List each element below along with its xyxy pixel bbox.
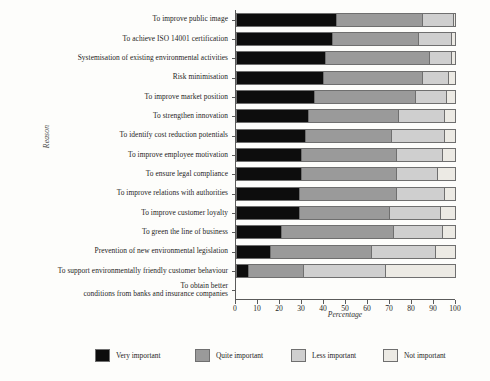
bar-segment [236, 245, 271, 259]
bar-segment [236, 51, 326, 65]
bar-segment [300, 206, 390, 220]
bar-segment [315, 90, 416, 104]
legend-item: Quite important [195, 347, 263, 363]
bar-segment [436, 245, 456, 259]
bar-segment [452, 32, 456, 46]
bar-segment [249, 264, 304, 278]
legend-swatch [95, 349, 110, 362]
plot-area [235, 10, 455, 300]
bar-segment [236, 71, 324, 85]
y-axis-tick [232, 136, 236, 137]
legend-item: Very important [95, 347, 161, 363]
y-axis-tick [232, 39, 236, 40]
bar-segment [326, 51, 429, 65]
bar-segment [337, 13, 423, 27]
bar-segment [452, 51, 456, 65]
bar-segment [302, 167, 397, 181]
bar-segment [397, 148, 443, 162]
legend-swatch [195, 349, 210, 362]
bar-segment [236, 187, 300, 201]
x-axis-tick-label: 100 [440, 304, 470, 313]
stacked-bar-chart: Reason To improve public imageTo achieve… [0, 0, 490, 381]
bar-segment [438, 167, 456, 181]
category-label-list: To improve public imageTo achieve ISO 14… [34, 10, 228, 300]
bar-segment [397, 167, 439, 181]
bar-row [236, 109, 455, 123]
bar-segment [397, 187, 445, 201]
bar-segment [236, 13, 337, 27]
bar-row [236, 245, 455, 259]
bar-segment [333, 32, 419, 46]
bar-segment [271, 245, 372, 259]
category-label: To obtain betterconditions from banks an… [34, 282, 228, 299]
bar-segment [392, 129, 445, 143]
bar-segment [445, 129, 456, 143]
category-label: Risk minimisation [34, 73, 228, 81]
legend-label: Quite important [216, 351, 263, 360]
y-axis-tick [232, 78, 236, 79]
category-label: To achieve ISO 14001 certification [34, 35, 228, 43]
bar-row [236, 283, 455, 297]
bar-segment [386, 264, 456, 278]
y-axis-tick [232, 213, 236, 214]
bar-row [236, 167, 455, 181]
bar-row [236, 129, 455, 143]
category-label: To strengthen innovation [34, 112, 228, 120]
y-axis-tick [232, 194, 236, 195]
bar-segment [236, 264, 249, 278]
y-axis-tick [232, 20, 236, 21]
bar-segment [443, 225, 456, 239]
bar-segment [236, 129, 306, 143]
bar-segment [416, 90, 447, 104]
bar-segment [236, 90, 315, 104]
bar-segment [236, 109, 309, 123]
bar-segment [423, 13, 454, 27]
y-axis-tick [232, 271, 236, 272]
category-label: Prevention of new environmental legislat… [34, 247, 228, 255]
bar-segment [419, 32, 452, 46]
legend-item: Less important [291, 347, 356, 363]
bar-segment [304, 264, 385, 278]
bar-segment [443, 148, 456, 162]
y-axis-tick [232, 116, 236, 117]
bar-segment [282, 225, 394, 239]
category-label: To improve customer loyalty [34, 209, 228, 217]
bar-segment [454, 13, 456, 27]
bar-segment [302, 148, 397, 162]
bar-segment [236, 167, 302, 181]
bar-segment [445, 109, 456, 123]
y-axis-tick [232, 290, 236, 291]
category-label: To support environmentally friendly cust… [34, 267, 228, 275]
bar-segment [447, 90, 456, 104]
bar-segment [390, 206, 441, 220]
chart-legend: Very importantQuite importantLess import… [95, 347, 455, 367]
category-label: Systemisation of existing environmental … [34, 54, 228, 62]
bar-segment [430, 51, 452, 65]
bar-row [236, 71, 455, 85]
legend-swatch [383, 349, 398, 362]
bar-row [236, 206, 455, 220]
y-axis-tick [232, 174, 236, 175]
bar-segment [306, 129, 392, 143]
bar-row [236, 32, 455, 46]
bar-row [236, 90, 455, 104]
category-label: To identify cost reduction potentials [34, 131, 228, 139]
bar-segment [445, 187, 456, 201]
y-axis-tick [232, 155, 236, 156]
category-label: To improve relations with authorities [34, 189, 228, 197]
bar-segment [236, 148, 302, 162]
category-label: To improve employee motivation [34, 151, 228, 159]
bar-segment [300, 187, 397, 201]
legend-label: Less important [312, 351, 356, 360]
bar-segment [324, 71, 423, 85]
bar-segment [449, 71, 456, 85]
bar-segment [441, 206, 456, 220]
bar-row [236, 264, 455, 278]
bar-segment [372, 245, 436, 259]
category-label: To ensure legal compliance [34, 170, 228, 178]
bar-row [236, 13, 455, 27]
bar-segment [236, 206, 300, 220]
category-label: To improve public image [34, 15, 228, 23]
y-axis-tick [232, 97, 236, 98]
bar-segment [236, 225, 282, 239]
